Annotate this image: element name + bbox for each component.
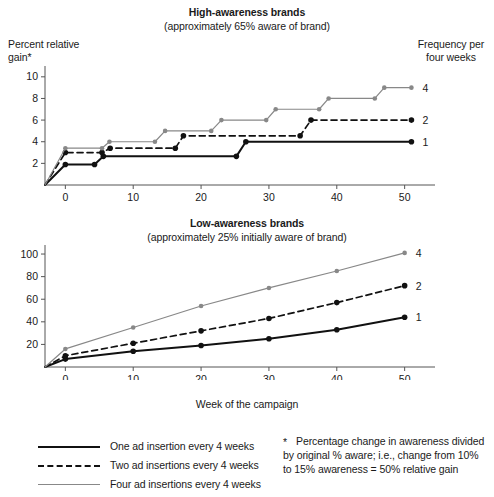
data-point-marker: [266, 336, 272, 342]
x-tick-label: 10: [127, 373, 139, 380]
data-point-marker: [63, 353, 69, 359]
y-tick-label: 10: [26, 70, 38, 82]
data-point-marker: [326, 96, 331, 101]
y-tick-label: 8: [32, 92, 38, 104]
plot-area-low-awareness: 2040608010001020304050124: [0, 205, 494, 380]
series-end-label: 2: [416, 280, 422, 292]
y-tick-label: 6: [32, 114, 38, 126]
series-end-label: 2: [422, 114, 428, 126]
data-point-marker: [409, 85, 414, 90]
data-point-marker: [402, 315, 408, 321]
series-line: [45, 88, 411, 185]
legend-label-two-ads: Two ad insertions every 4 weeks: [100, 459, 259, 471]
data-point-marker: [308, 117, 314, 123]
data-point-marker: [273, 107, 278, 112]
series-end-label: 1: [416, 311, 422, 323]
x-tick-label: 10: [127, 191, 139, 203]
panel-high-awareness: High-awareness brands (approximately 65%…: [0, 0, 494, 210]
legend-label-one-ad: One ad insertion every 4 weeks: [100, 440, 254, 452]
data-point-marker: [107, 139, 112, 144]
x-tick-label: 50: [399, 191, 411, 203]
y-tick-label: 2: [32, 157, 38, 169]
data-point-marker: [100, 146, 105, 151]
data-point-marker: [297, 133, 303, 139]
legend-item-four-ads: Four ad insertions every 4 weeks: [38, 474, 288, 493]
data-point-marker: [63, 162, 69, 168]
data-point-marker: [209, 129, 214, 134]
x-tick-label: 20: [195, 191, 207, 203]
data-point-marker: [130, 340, 136, 346]
data-point-marker: [372, 96, 377, 101]
legend-label-four-ads: Four ad insertions every 4 weeks: [100, 478, 261, 490]
data-point-marker: [234, 154, 240, 160]
x-tick-label: 0: [62, 191, 68, 203]
series-end-label: 4: [416, 247, 422, 259]
awareness-gain-figure: High-awareness brands (approximately 65%…: [0, 0, 494, 497]
x-axis-title: Week of the campaign: [0, 398, 494, 410]
data-point-marker: [99, 150, 105, 156]
data-point-marker: [198, 343, 204, 349]
legend-item-one-ad: One ad insertion every 4 weeks: [38, 436, 288, 455]
legend-item-two-ads: Two ad insertions every 4 weeks: [38, 455, 288, 474]
series-end-label: 4: [422, 82, 428, 94]
data-point-marker: [172, 145, 178, 151]
data-point-marker: [219, 118, 224, 123]
plot-area-high-awareness: 24681001020304050124: [0, 0, 494, 210]
data-point-marker: [409, 117, 415, 123]
data-point-marker: [181, 133, 187, 139]
panel-low-awareness: Low-awareness brands (approximately 25% …: [0, 205, 494, 380]
y-tick-label: 80: [26, 270, 38, 282]
data-point-marker: [334, 269, 339, 274]
y-tick-label: 100: [20, 248, 38, 260]
x-tick-label: 40: [331, 373, 343, 380]
data-point-marker: [107, 145, 113, 151]
footnote-marker: *: [283, 435, 287, 449]
data-point-marker: [63, 347, 68, 352]
data-point-marker: [409, 139, 415, 145]
legend-footnote-block: One ad insertion every 4 weeks Two ad in…: [0, 428, 494, 497]
data-point-marker: [243, 139, 249, 145]
x-tick-label: 30: [263, 373, 275, 380]
legend: One ad insertion every 4 weeks Two ad in…: [38, 436, 288, 493]
data-point-marker: [63, 146, 68, 151]
footnote: * Percentage change in awareness divided…: [283, 434, 488, 476]
x-tick-label: 50: [399, 373, 411, 380]
data-point-marker: [267, 286, 272, 291]
data-point-marker: [334, 300, 340, 306]
data-point-marker: [131, 325, 136, 330]
y-tick-label: 20: [26, 338, 38, 350]
legend-swatch-solid-black-icon: [38, 440, 100, 452]
footnote-text: Percentage change in awareness divided b…: [283, 435, 484, 475]
data-point-marker: [317, 107, 322, 112]
data-point-marker: [199, 304, 204, 309]
data-point-marker: [130, 348, 136, 354]
data-point-marker: [382, 85, 387, 90]
x-tick-label: 0: [62, 373, 68, 380]
x-tick-label: 20: [195, 373, 207, 380]
legend-swatch-solid-gray-icon: [38, 478, 100, 490]
data-point-marker: [334, 327, 340, 333]
x-tick-label: 30: [263, 191, 275, 203]
data-point-marker: [153, 139, 158, 144]
data-point-marker: [264, 118, 269, 123]
data-point-marker: [92, 162, 98, 168]
data-point-marker: [402, 251, 407, 256]
data-point-marker: [266, 316, 272, 322]
y-tick-label: 4: [32, 135, 38, 147]
series-line: [45, 253, 405, 367]
legend-swatch-dashed-black-icon: [38, 459, 100, 471]
series-line: [45, 317, 405, 367]
x-tick-label: 40: [331, 191, 343, 203]
data-point-marker: [198, 328, 204, 334]
y-tick-label: 60: [26, 293, 38, 305]
y-tick-label: 40: [26, 315, 38, 327]
data-point-marker: [402, 283, 408, 289]
series-end-label: 1: [422, 136, 428, 148]
data-point-marker: [163, 129, 168, 134]
